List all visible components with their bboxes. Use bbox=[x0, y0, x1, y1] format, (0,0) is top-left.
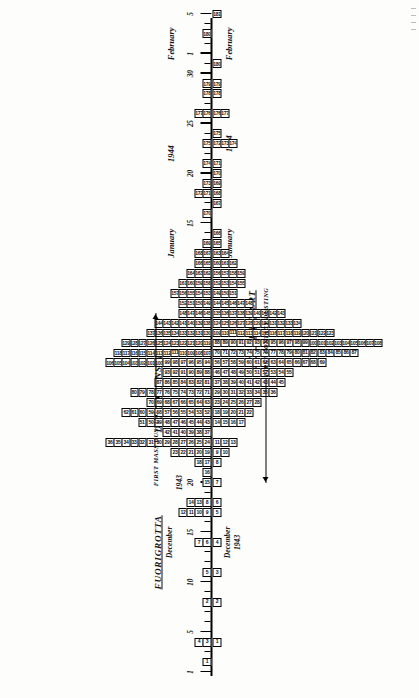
case-box: 142 bbox=[170, 319, 179, 328]
case-number: 45 bbox=[278, 380, 283, 385]
case-number: 15 bbox=[204, 480, 209, 485]
case-number: 77 bbox=[270, 350, 275, 355]
case-number: 20 bbox=[230, 410, 235, 415]
case-box: 48 bbox=[228, 368, 237, 377]
case-box: 27 bbox=[178, 438, 187, 447]
case-number: 124 bbox=[213, 321, 220, 326]
case-box: 15 bbox=[220, 418, 229, 427]
case-number: 73 bbox=[238, 350, 243, 355]
case-box: 42 bbox=[252, 378, 261, 387]
case-stack: 1 bbox=[201, 658, 210, 667]
case-number: 175 bbox=[213, 131, 220, 136]
case-number: 122 bbox=[179, 340, 186, 345]
case-number: 110 bbox=[179, 350, 186, 355]
case-number: 73 bbox=[188, 390, 193, 395]
case-box: 135 bbox=[212, 309, 221, 318]
case-box: 178 bbox=[212, 89, 221, 98]
case-box: 29 bbox=[212, 388, 221, 397]
case-box: 151 bbox=[186, 299, 195, 308]
case-box: 134 bbox=[170, 329, 179, 338]
case-number: 169 bbox=[213, 181, 220, 186]
case-box: 140 bbox=[186, 319, 195, 328]
case-number: 173 bbox=[203, 181, 210, 186]
case-box: 92 bbox=[244, 339, 253, 348]
case-stack: 175 bbox=[201, 139, 210, 148]
case-number: 19 bbox=[204, 450, 209, 455]
case-number: 78 bbox=[148, 390, 153, 395]
case-number: 23 bbox=[172, 450, 177, 455]
case-number: 56 bbox=[214, 360, 219, 365]
case-box: 52 bbox=[202, 408, 211, 417]
axis-tick-label: 5 bbox=[186, 630, 194, 633]
case-number: 114 bbox=[253, 330, 260, 335]
case-box: 159 bbox=[236, 269, 245, 278]
case-box: 12 bbox=[220, 438, 229, 447]
case-box: 45 bbox=[276, 378, 285, 387]
case-number: 7 bbox=[215, 480, 217, 485]
case-box: 81 bbox=[202, 378, 211, 387]
case-box: 77 bbox=[268, 349, 277, 358]
case-number: 139 bbox=[245, 311, 252, 316]
case-box: 173 bbox=[220, 139, 229, 148]
onset-caption-december: December bbox=[164, 527, 173, 559]
case-number: 81 bbox=[302, 350, 307, 355]
case-number: 64 bbox=[196, 400, 201, 405]
case-number: 40 bbox=[238, 380, 243, 385]
case-box: 70 bbox=[212, 349, 221, 358]
case-number: 159 bbox=[237, 271, 244, 276]
case-stack: 163164 bbox=[212, 249, 229, 258]
case-box: 164 bbox=[220, 249, 229, 258]
case-box: 68 bbox=[162, 398, 171, 407]
case-stack: 170 bbox=[201, 209, 210, 218]
case-stack: 6 bbox=[212, 498, 221, 507]
case-number: 115 bbox=[138, 350, 145, 355]
case-box: 11 bbox=[212, 438, 221, 447]
case-stack: 144143142141140139138 bbox=[153, 319, 210, 328]
case-number: 97 bbox=[180, 360, 185, 365]
case-number: 114 bbox=[146, 350, 153, 355]
case-box: 50 bbox=[244, 368, 253, 377]
case-box: 14 bbox=[212, 418, 221, 427]
case-number: 164 bbox=[187, 271, 194, 276]
case-box: 76 bbox=[162, 388, 171, 397]
case-box: 36 bbox=[268, 388, 277, 397]
case-box: 14 bbox=[186, 498, 195, 507]
case-number: 14 bbox=[214, 420, 219, 425]
axis-tick-label: 15 bbox=[186, 220, 194, 227]
case-box: 37 bbox=[202, 428, 211, 437]
axis-tick-major bbox=[200, 631, 211, 632]
case-number: 20 bbox=[196, 450, 201, 455]
case-box: 149 bbox=[202, 299, 211, 308]
case-box: 173 bbox=[202, 179, 211, 188]
case-number: 142 bbox=[170, 321, 177, 326]
case-box: 153 bbox=[220, 279, 229, 288]
case-number: 46 bbox=[180, 420, 185, 425]
case-box: 110 bbox=[220, 329, 229, 338]
case-number: 18 bbox=[196, 460, 201, 465]
case-number: 165 bbox=[203, 261, 210, 266]
case-box: 168 bbox=[194, 249, 203, 258]
case-box: 139 bbox=[244, 309, 253, 318]
case-box: 30 bbox=[220, 388, 229, 397]
case-box: 127 bbox=[236, 319, 245, 328]
case-number: 153 bbox=[221, 281, 228, 286]
case-number: 1 bbox=[205, 659, 207, 664]
case-stack: 167 bbox=[212, 199, 221, 208]
case-number: 145 bbox=[221, 301, 228, 306]
case-number: 8 bbox=[205, 500, 207, 505]
case-number: 151 bbox=[229, 291, 236, 296]
case-box: 64 bbox=[194, 398, 203, 407]
axis-tick-minor bbox=[204, 23, 210, 24]
case-box: 13 bbox=[228, 438, 237, 447]
case-number: 52 bbox=[204, 410, 209, 415]
case-box: 81 bbox=[301, 349, 310, 358]
case-box: 45 bbox=[186, 418, 195, 427]
case-number: 146 bbox=[229, 301, 236, 306]
case-number: 112 bbox=[237, 330, 244, 335]
case-box: 105 bbox=[113, 359, 122, 368]
case-stack: 43 bbox=[193, 638, 210, 647]
case-box: 31 bbox=[228, 388, 237, 397]
case-number: 88 bbox=[214, 340, 219, 345]
case-number: 138 bbox=[203, 321, 210, 326]
case-box: 129 bbox=[121, 339, 130, 348]
